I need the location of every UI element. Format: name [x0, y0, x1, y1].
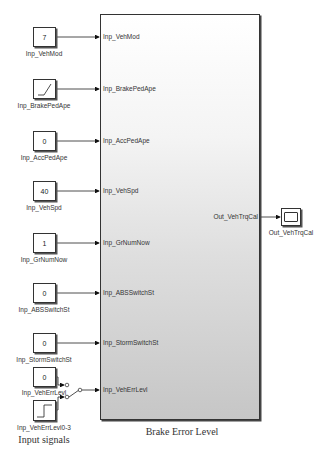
constant-value: 0 — [43, 374, 47, 381]
block-label: Inp_ABSSwitchSt — [19, 306, 70, 313]
input-port-label: Inp_StormSwitchSt — [103, 339, 158, 346]
constant-block-vehmod[interactable]: 7 — [33, 27, 56, 47]
block-label: Inp_BrakePedApe — [18, 102, 71, 109]
input-port-label: Inp_GrNumNow — [103, 239, 150, 246]
constant-value: 7 — [43, 34, 47, 41]
input-port-label: Inp_VehErrLevl — [103, 386, 147, 393]
block-label: Inp_VehErrLevl0-3 — [17, 424, 71, 431]
constant-value: 40 — [41, 188, 49, 195]
input-port-label: Inp_AccPedApe — [103, 137, 150, 144]
input-port-label: Inp_ABSSwitchSt — [103, 289, 154, 296]
constant-value: 1 — [43, 240, 47, 247]
output-port-label: Out_VehTrqCal — [213, 213, 258, 220]
block-label: Inp_VehErrLevl — [22, 389, 66, 396]
constant-block-grnumnow[interactable]: 1 — [33, 233, 56, 253]
constant-block-vehErrlevl[interactable]: 0 — [33, 367, 56, 387]
ramp-icon — [34, 80, 55, 98]
input-port-label: Inp_BrakePedApe — [103, 85, 156, 92]
step-icon — [34, 401, 55, 420]
block-label: Inp_AccPedApe — [21, 154, 68, 161]
input-signals-caption: Input signals — [18, 434, 69, 445]
diagram-canvas: 7 Inp_VehMod Inp_BrakePedApe 0 Inp_AccPe… — [0, 0, 332, 456]
constant-value: 0 — [43, 138, 47, 145]
block-label: Inp_StormSwitchSt — [16, 356, 71, 363]
step-block-vehErrlevl0-3[interactable] — [33, 400, 56, 421]
block-label: Inp_GrNumNow — [21, 256, 68, 263]
constant-block-absswitchst[interactable]: 0 — [33, 283, 56, 303]
scope-icon — [284, 212, 298, 222]
block-label: Out_VehTrqCal — [269, 229, 314, 236]
constant-block-stormswitchst[interactable]: 0 — [33, 333, 56, 353]
constant-value: 0 — [43, 340, 47, 347]
block-label: Inp_VehMod — [26, 50, 63, 57]
input-port-label: Inp_VehSpd — [103, 187, 138, 194]
constant-block-vehspd[interactable]: 40 — [33, 181, 56, 201]
scope-block-out-vehtrqcal[interactable] — [281, 208, 301, 226]
subsystem-name: Brake Error Level — [146, 426, 219, 437]
constant-value: 0 — [43, 290, 47, 297]
input-port-label: Inp_VehMod — [103, 33, 140, 40]
constant-block-accpedape[interactable]: 0 — [33, 131, 56, 151]
ramp-block-brakepedape[interactable] — [33, 79, 56, 99]
block-label: Inp_VehSpd — [26, 204, 61, 211]
